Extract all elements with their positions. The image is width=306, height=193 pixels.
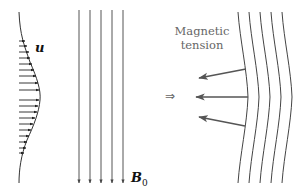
tension-arrows [196,69,248,126]
bent-line-2 [249,12,259,183]
magnetic-tension-label: Magnetic tension [167,24,237,52]
tension-label-line1: Magnetic [167,24,237,38]
velocity-envelope-curve [19,12,40,183]
field-label-main: B [131,170,142,185]
velocity-arrows [19,41,39,153]
tension-label-line2: tension [167,38,237,52]
tension-arrow-bottom [199,117,245,126]
field-label-subscript: 0 [142,178,148,188]
bent-line-4 [271,12,281,183]
velocity-label: u [35,40,44,55]
uniform-field-lines [79,10,123,183]
tension-arrow-top [199,69,246,78]
implies-arrow-icon: ⇒ [165,89,175,103]
mhd-diagram [0,0,306,193]
velocity-profile [19,12,40,183]
bent-line-3 [260,12,270,183]
bent-line-5 [282,12,292,183]
field-label: B0 [131,170,148,188]
